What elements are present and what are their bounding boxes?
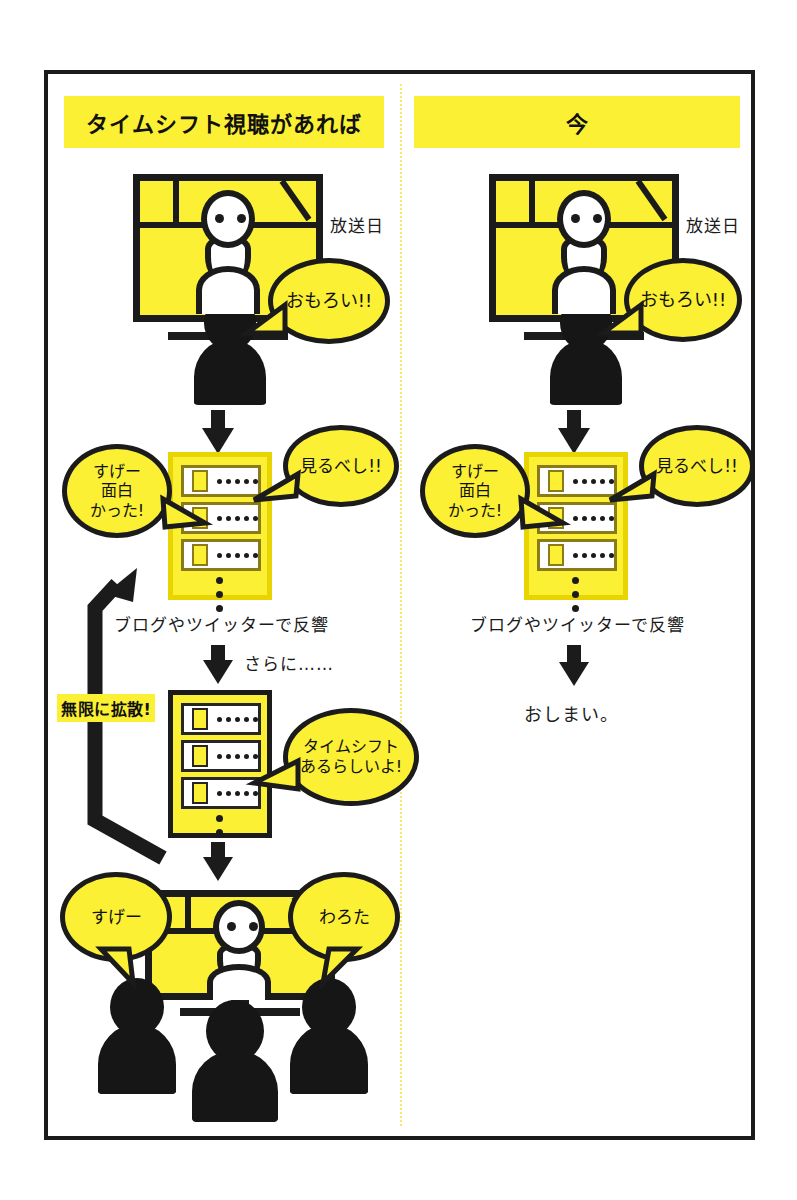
tv-person-eye-left xyxy=(571,214,580,223)
left-bubble-timeshift: タイムシフト あるらしいよ! xyxy=(283,708,419,806)
right-end-caption: おしまい。 xyxy=(524,700,619,726)
tv-wall-line-horizontal-right xyxy=(251,222,316,228)
arrow-head xyxy=(203,660,233,684)
tv-person-eye-right xyxy=(249,922,258,931)
left-bubble-mirubeshi: 見るべし!! xyxy=(283,425,399,507)
left-loop-caption: 無限に拡散! xyxy=(57,694,155,722)
right-arrow-to-end xyxy=(562,645,586,687)
left-bubble-timeshift-tail xyxy=(254,757,302,795)
left-bubble-sugee-line-3: かった! xyxy=(90,501,144,521)
left-bubble-sugee-line-1: すげー xyxy=(93,462,141,482)
left-bubble-warota-tail xyxy=(319,947,363,987)
feed-row-text-dots xyxy=(217,754,258,759)
silhouette-body xyxy=(290,1024,368,1094)
left-bubble-sugee-tail xyxy=(159,497,207,533)
left-column-header-label: タイムシフト視聴があれば xyxy=(86,106,362,138)
feed-row xyxy=(537,539,617,571)
feed-row xyxy=(537,465,617,497)
right-bubble-sugee-omoshiro: すげー 面白 かった! xyxy=(420,444,530,538)
silhouette-body xyxy=(550,339,622,405)
viewer-silhouette-right xyxy=(284,978,376,1094)
left-bubble-omoroi-text: おもろい!! xyxy=(286,290,372,312)
feed-more-indicator xyxy=(572,577,579,612)
feed-more-indicator xyxy=(216,577,223,612)
left-bubble-sugee: すげー xyxy=(60,872,172,962)
silhouette-body xyxy=(194,339,266,405)
feed-row-text-dots xyxy=(217,791,258,796)
right-column-header-label: 今 xyxy=(566,106,589,138)
left-bubble-mirubeshi-text: 見るべし!! xyxy=(300,456,382,477)
left-arrow-to-feed-2 xyxy=(206,645,230,685)
left-bubble-sugee-line-2: 面白 xyxy=(101,481,133,501)
left-bubble-warota-text: わろた xyxy=(319,907,370,928)
tv-person-shoulders xyxy=(196,266,260,314)
tv-person-head xyxy=(201,190,255,248)
left-bubble-sugee-omoshiro: すげー 面白 かった! xyxy=(62,444,172,538)
tv-person-eye-right xyxy=(237,214,246,223)
feed-row-thumbnail xyxy=(192,470,208,492)
viewer-silhouette-left xyxy=(92,978,184,1094)
right-arrow-to-feed xyxy=(562,410,586,454)
left-bubble-timeshift-line-2: あるらしいよ! xyxy=(300,757,402,777)
feed-row-text-dots xyxy=(217,553,258,558)
left-bubble-warota: わろた xyxy=(288,872,400,962)
feed-row-thumbnail xyxy=(548,470,564,492)
silhouette-body xyxy=(192,1050,278,1122)
feed-row-text-dots xyxy=(217,717,258,722)
feed-row-text-dots xyxy=(217,479,258,484)
tv-wall-line-horizontal-right xyxy=(607,222,672,228)
silhouette-body xyxy=(98,1024,176,1094)
left-bubble-sugee-tail xyxy=(99,947,143,987)
tv-person-eye-right xyxy=(593,214,602,223)
right-bubble-sugee-line-1: すげー xyxy=(451,462,499,482)
feed-row-thumbnail xyxy=(548,544,564,566)
feed-row xyxy=(181,465,261,497)
figure-canvas: タイムシフト視聴があれば 今 放送日 おもろい!! xyxy=(0,0,797,1200)
left-column-header: タイムシフト視聴があれば xyxy=(64,96,384,148)
left-broadcast-day-label: 放送日 xyxy=(330,212,384,237)
tv-person-shoulders xyxy=(207,964,271,1000)
left-bubble-sugee-text: すげー xyxy=(91,907,142,928)
right-bubble-omoroi: おもろい!! xyxy=(624,258,742,342)
right-bubble-mirubeshi: 見るべし!! xyxy=(639,425,755,507)
column-divider xyxy=(400,84,402,1126)
arrow-head xyxy=(559,662,589,686)
right-bubble-omoroi-text: おもろい!! xyxy=(640,289,726,311)
feed-row-thumbnail xyxy=(192,544,208,566)
left-bubble-timeshift-line-1: タイムシフト xyxy=(303,737,399,757)
viewer-silhouette-center xyxy=(186,1000,284,1122)
tv-person-shoulders xyxy=(552,266,616,314)
right-bubble-mirubeshi-tail xyxy=(610,470,658,506)
left-bubble-omoroi: おもろい!! xyxy=(268,258,390,344)
right-bubble-sugee-line-2: 面白 xyxy=(459,481,491,501)
tv-wall-line-vertical xyxy=(529,181,535,227)
feed-row-text-dots xyxy=(573,479,614,484)
feed-row-text-dots xyxy=(573,516,614,521)
left-further-caption: さらに…… xyxy=(244,650,334,675)
right-broadcast-day-label: 放送日 xyxy=(686,212,740,237)
right-column-header: 今 xyxy=(414,96,740,148)
left-arrow-to-bottom-tv xyxy=(206,842,230,882)
left-arrow-to-feed-1 xyxy=(206,410,230,454)
right-reaction-caption: ブログやツイッターで反響 xyxy=(470,611,685,636)
right-bubble-sugee-tail xyxy=(517,497,565,533)
tv-wall-line-horizontal xyxy=(140,222,206,228)
right-bubble-mirubeshi-text: 見るべし!! xyxy=(656,456,738,477)
feed-row-text-dots xyxy=(217,516,258,521)
arrow-head xyxy=(202,428,234,454)
right-bubble-sugee-line-3: かった! xyxy=(448,501,502,521)
left-bubble-mirubeshi-tail xyxy=(254,470,302,506)
arrow-head xyxy=(203,857,233,881)
feed-row-text-dots xyxy=(573,553,614,558)
feed-row xyxy=(181,539,261,571)
tv-wall-line-horizontal xyxy=(496,222,562,228)
tv-person-eye-left xyxy=(227,922,236,931)
arrow-head xyxy=(558,428,590,454)
tv-person-eye-left xyxy=(215,214,224,223)
tv-wall-line-vertical xyxy=(173,181,179,227)
tv-person-head xyxy=(557,190,611,248)
